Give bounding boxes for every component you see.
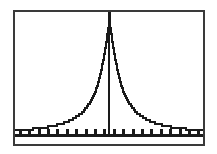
calculator-plot-screen[interactable] xyxy=(13,10,205,146)
plot-canvas xyxy=(15,12,203,144)
calculator-screenshot xyxy=(0,0,217,154)
